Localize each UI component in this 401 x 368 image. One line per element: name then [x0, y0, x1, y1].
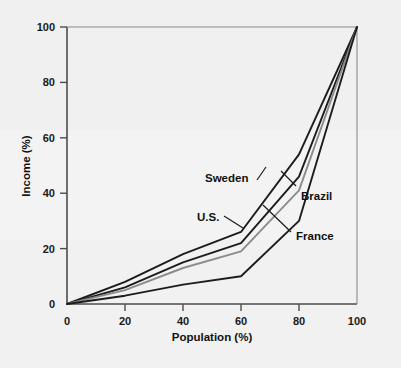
y-tick-label-40: 40 [43, 187, 55, 199]
series-label-us: U.S. [197, 211, 219, 223]
y-tick-label-60: 60 [43, 132, 55, 144]
series-layer [67, 27, 357, 304]
y-tick-label-20: 20 [43, 243, 55, 255]
y-tick-label-0: 0 [49, 298, 55, 310]
x-axis-title: Population (%) [172, 331, 253, 343]
series-line-brazil [67, 27, 357, 304]
y-tick-marks [60, 27, 67, 249]
y-tick-label-80: 80 [43, 76, 55, 88]
series-line-u-s [67, 27, 357, 304]
y-tick-label-100: 100 [37, 21, 55, 33]
y-axis-title: Income (%) [20, 135, 32, 197]
lorenz-curve-figure: 100 80 60 40 20 0 0 20 40 60 80 100 Popu… [0, 0, 401, 368]
x-tick-label-60: 60 [235, 315, 247, 327]
leader-line-us [224, 216, 243, 228]
leader-line-france [263, 205, 291, 232]
x-tick-label-0: 0 [64, 315, 70, 327]
series-label-brazil: Brazil [301, 190, 332, 202]
leader-line-brazil [281, 171, 296, 186]
x-tick-marks [125, 304, 299, 311]
series-label-sweden: Sweden [205, 172, 248, 184]
x-tick-label-100: 100 [348, 315, 366, 327]
series-line-sweden [67, 27, 357, 304]
series-line-france [67, 27, 357, 304]
x-tick-label-40: 40 [177, 315, 189, 327]
chart-canvas: 100 80 60 40 20 0 0 20 40 60 80 100 Popu… [0, 0, 401, 368]
leader-line-sweden [257, 167, 266, 180]
x-tick-label-20: 20 [119, 315, 131, 327]
y-tick-labels: 100 80 60 40 20 0 [37, 21, 55, 310]
x-tick-label-80: 80 [293, 315, 305, 327]
axes-frame [67, 27, 357, 304]
series-label-france: France [296, 230, 334, 242]
x-tick-labels: 0 20 40 60 80 100 [64, 315, 366, 327]
